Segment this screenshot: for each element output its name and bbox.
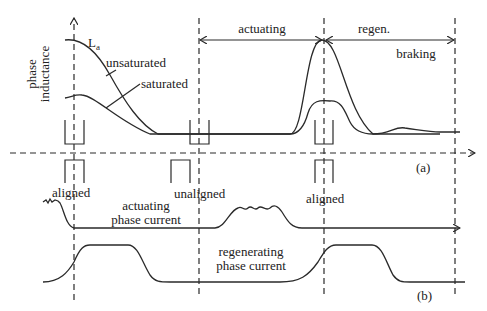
actuating-current-label-2: phase current — [111, 212, 181, 227]
stator-pole-unaligned — [171, 160, 190, 183]
aligned-left-label: aligned — [52, 185, 91, 200]
unaligned-label: unaligned — [174, 186, 226, 201]
regenerating-current-label-1: regenerating — [219, 244, 284, 259]
actuating-current-label-1: actuating — [122, 198, 170, 213]
saturated-curve — [65, 95, 460, 134]
y-axis-label-inductance: inductance — [37, 46, 52, 103]
saturated-leader — [106, 84, 140, 108]
region-braking-label: braking — [396, 46, 436, 61]
aligned-right-label: aligned — [306, 191, 345, 206]
region-actuating-label: actuating — [238, 21, 286, 36]
panel-a-label: (a) — [416, 160, 430, 175]
rotor-pole-aligned-left — [65, 120, 84, 144]
panel-b-label: (b) — [417, 288, 432, 303]
region-regen-label: regen. — [358, 21, 390, 36]
saturated-label: saturated — [141, 76, 188, 91]
panel-a: phase inductance La unsaturated saturate… — [24, 21, 460, 175]
curve-label-La: La — [88, 35, 100, 52]
regenerating-current-label-2: phase current — [216, 258, 286, 273]
unsaturated-curve — [65, 40, 440, 134]
phase-inductance-current-diagram: phase inductance La unsaturated saturate… — [0, 0, 487, 311]
actuating-phase-current — [43, 199, 460, 228]
panel-b: aligned unaligned aligned actuating phas… — [43, 160, 465, 303]
unsaturated-label: unsaturated — [106, 55, 166, 70]
